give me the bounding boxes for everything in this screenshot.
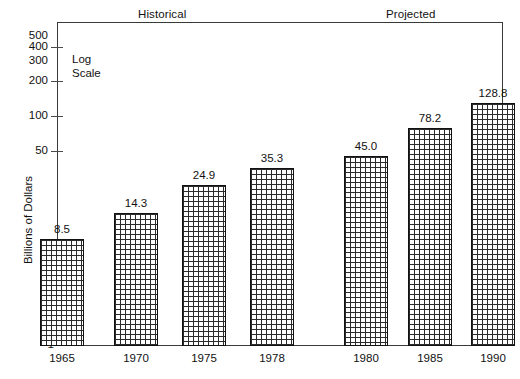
bar-1990: [471, 103, 515, 346]
log-scale-note-line2: Scale: [72, 67, 101, 81]
log-scale-note-line1: Log: [72, 53, 101, 67]
bar-value-label: 14.3: [106, 197, 166, 209]
y-axis-tick-label: 400: [14, 40, 48, 52]
y-axis-tick-label: 100: [14, 109, 48, 121]
x-axis-tick-label: 1970: [106, 352, 166, 364]
y-axis-tick-mark: [51, 81, 63, 82]
bar-1980: [344, 156, 388, 346]
x-axis-tick-label: 1990: [463, 352, 520, 364]
group-label-historical: Historical: [138, 8, 186, 20]
bar-value-label: 78.2: [400, 112, 460, 124]
bar-value-label: 8.5: [32, 223, 92, 235]
y-axis-tick-mark: [51, 116, 63, 117]
log-scale-note: Log Scale: [72, 53, 101, 80]
group-label-projected: Projected: [386, 8, 435, 20]
y-axis-tick-mark: [51, 151, 63, 152]
y-axis-title: Billions of Dollars: [22, 140, 34, 300]
x-axis-tick-label: 1965: [32, 352, 92, 364]
bar-value-label: 128.8: [463, 87, 520, 99]
y-axis-tick-label: 300: [14, 54, 48, 66]
bar-1978: [250, 168, 294, 346]
y-axis-tick-label: 50: [14, 144, 48, 156]
chart-canvas: Historical Projected Billions of Dollars…: [0, 0, 520, 379]
bar-1985: [408, 128, 452, 346]
x-axis-tick-label: 1980: [336, 352, 396, 364]
bar-value-label: 24.9: [174, 169, 234, 181]
bar-value-label: 45.0: [336, 140, 396, 152]
bar-1965: [40, 239, 84, 346]
y-axis-tick-label: 200: [14, 74, 48, 86]
bar-1975: [182, 185, 226, 346]
x-axis-tick-label: 1985: [400, 352, 460, 364]
x-axis-tick-label: 1978: [242, 352, 302, 364]
x-axis-tick-label: 1975: [174, 352, 234, 364]
y-axis-tick-mark: [51, 47, 63, 48]
bar-1970: [114, 213, 158, 346]
bar-value-label: 35.3: [242, 152, 302, 164]
